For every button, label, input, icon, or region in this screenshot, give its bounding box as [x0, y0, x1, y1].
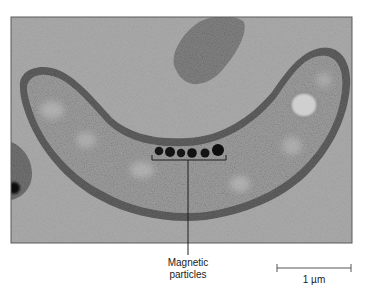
magnetic-particles-label-line1: Magnetic [148, 257, 228, 269]
magnetic-particle [155, 147, 164, 156]
magnetic-particle [177, 149, 185, 157]
scale-bar-label: 1 µm [294, 274, 334, 286]
magnetic-particles-label: Magnetic particles [148, 257, 228, 281]
magnetic-particle [212, 144, 224, 156]
magnetic-particles-label-line2: particles [148, 269, 228, 281]
micrograph-figure [0, 0, 366, 295]
scale-bar [277, 264, 351, 272]
magnetic-particle [187, 148, 197, 158]
magnetic-particle [201, 149, 210, 158]
magnetic-particle [165, 147, 175, 157]
micrograph-panel [8, 16, 352, 243]
vacuole [291, 93, 317, 117]
